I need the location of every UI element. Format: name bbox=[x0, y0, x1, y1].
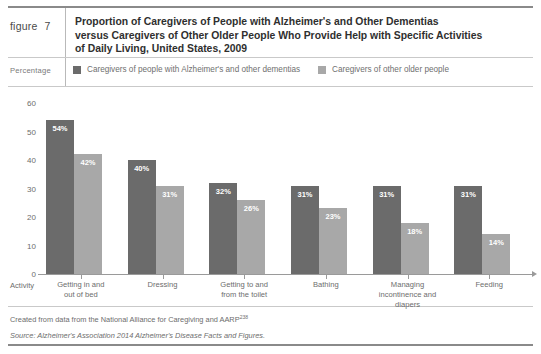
bar-value-label: 42% bbox=[74, 158, 102, 167]
bar-groups: 54%42%40%31%32%26%31%23%31%18%31%14% bbox=[40, 103, 530, 274]
bar-group: 54%42% bbox=[40, 103, 122, 274]
bar[interactable]: 54% bbox=[46, 120, 74, 274]
y-axis-tick-60: 60 bbox=[27, 99, 36, 108]
figure-number: 7 bbox=[44, 20, 50, 32]
y-axis-tick-20: 20 bbox=[27, 213, 36, 222]
divider-bottom bbox=[8, 344, 533, 346]
bar-value-label: 40% bbox=[128, 164, 156, 173]
figure-title: Proportion of Caregivers of People with … bbox=[75, 15, 530, 56]
legend-swatch-dementia-caregivers bbox=[73, 66, 81, 74]
bar-pair: 40%31% bbox=[122, 103, 204, 274]
legend-label-other-caregivers: Caregivers of other older people bbox=[332, 65, 449, 74]
bar-value-label: 31% bbox=[156, 190, 184, 199]
x-axis-category-label-line: Managing bbox=[367, 280, 449, 290]
legend-label-dementia-caregivers: Caregivers of people with Alzheimer's an… bbox=[87, 65, 300, 74]
bar-pair: 54%42% bbox=[40, 103, 122, 274]
footnote-created-text: Created from data from the National Alli… bbox=[10, 315, 240, 324]
x-axis-category-label: Bathing bbox=[285, 280, 367, 310]
x-axis-category-label: Getting in andout of bed bbox=[40, 280, 122, 310]
footnote-created: Created from data from the National Alli… bbox=[10, 314, 248, 324]
y-axis-tick-0: 0 bbox=[32, 270, 36, 279]
bar-value-label: 31% bbox=[373, 190, 401, 199]
bar-pair: 32%26% bbox=[203, 103, 285, 274]
figure-title-line-3: of Daily Living, United States, 2009 bbox=[75, 42, 530, 56]
y-axis-tick-30: 30 bbox=[27, 184, 36, 193]
bar-group: 31%23% bbox=[285, 103, 367, 274]
figure-label: figure7 bbox=[10, 20, 51, 32]
bar-pair: 31%23% bbox=[285, 103, 367, 274]
bar-value-label: 23% bbox=[319, 212, 347, 221]
bar-value-label: 32% bbox=[209, 187, 237, 196]
bar[interactable]: 31% bbox=[156, 186, 184, 274]
bar[interactable]: 31% bbox=[373, 186, 401, 274]
bar-value-label: 31% bbox=[291, 190, 319, 199]
figure-title-line-2: versus Caregivers of Other Older People … bbox=[75, 29, 530, 43]
x-axis-category-label: Getting to andfrom the toilet bbox=[203, 280, 285, 310]
y-axis-tick-40: 40 bbox=[27, 156, 36, 165]
figure-container: figure7 Proportion of Caregivers of Peop… bbox=[0, 0, 541, 354]
x-axis-category-label-line: Getting to and bbox=[203, 280, 285, 290]
x-axis-arrow bbox=[532, 271, 537, 277]
figure-word: figure bbox=[10, 20, 37, 32]
bar-value-label: 26% bbox=[237, 204, 265, 213]
bar[interactable]: 23% bbox=[319, 208, 347, 274]
x-axis-category-label-line: Dressing bbox=[122, 280, 204, 290]
bar-group: 40%31% bbox=[122, 103, 204, 274]
bar-pair: 31%14% bbox=[448, 103, 530, 274]
x-axis-category-label-line: incontinence and diapers bbox=[367, 290, 449, 310]
bar[interactable]: 42% bbox=[74, 154, 102, 274]
x-axis-caption: Activity bbox=[10, 281, 34, 290]
divider-top bbox=[8, 6, 533, 8]
bar-value-label: 54% bbox=[46, 124, 74, 133]
bar-group: 31%14% bbox=[448, 103, 530, 274]
divider-header-vertical bbox=[65, 8, 66, 86]
x-axis-line bbox=[38, 274, 534, 275]
x-axis-category-label-line: out of bed bbox=[40, 290, 122, 300]
figure-title-line-1: Proportion of Caregivers of People with … bbox=[75, 15, 530, 29]
bar[interactable]: 26% bbox=[237, 200, 265, 274]
bar[interactable]: 31% bbox=[454, 186, 482, 274]
divider-legend-bottom bbox=[8, 86, 533, 87]
x-axis-tick-labels: Getting in andout of bedDressingGetting … bbox=[40, 280, 530, 310]
x-axis-category-label: Dressing bbox=[122, 280, 204, 310]
x-axis-category-label-line: from the toilet bbox=[203, 290, 285, 300]
x-axis-tick-mark bbox=[163, 275, 164, 279]
footnote-source: Source: Alzheimer's Association 2014 Alz… bbox=[10, 331, 265, 340]
bar-value-label: 31% bbox=[454, 190, 482, 199]
legend-item-dementia-caregivers: Caregivers of people with Alzheimer's an… bbox=[73, 65, 300, 74]
x-axis-category-label: Managingincontinence and diapers bbox=[367, 280, 449, 310]
x-axis-tick-mark bbox=[81, 275, 82, 279]
bar[interactable]: 14% bbox=[482, 234, 510, 274]
x-axis-tick-mark bbox=[244, 275, 245, 279]
bar-group: 32%26% bbox=[203, 103, 285, 274]
bar-value-label: 18% bbox=[401, 227, 429, 236]
x-axis-category-label: Feeding bbox=[448, 280, 530, 310]
bar[interactable]: 32% bbox=[209, 183, 237, 274]
legend-item-other-caregivers: Caregivers of other older people bbox=[318, 65, 449, 74]
bar[interactable]: 40% bbox=[128, 160, 156, 274]
x-axis-tick-mark bbox=[326, 275, 327, 279]
y-axis-tick-labels: 0102030405060 bbox=[10, 97, 36, 279]
legend-swatch-other-caregivers bbox=[318, 66, 326, 74]
x-axis-category-label-line: Getting in and bbox=[40, 280, 122, 290]
y-axis-tick-50: 50 bbox=[27, 127, 36, 136]
bar-value-label: 14% bbox=[482, 238, 510, 247]
y-axis-caption: Percentage bbox=[10, 66, 51, 75]
x-axis-category-label-line: Bathing bbox=[285, 280, 367, 290]
x-axis-tick-mark bbox=[408, 275, 409, 279]
x-axis-category-label-line: Feeding bbox=[448, 280, 530, 290]
bar[interactable]: 18% bbox=[401, 223, 429, 274]
y-axis-tick-10: 10 bbox=[27, 241, 36, 250]
divider-header-bottom bbox=[8, 57, 533, 58]
footnote-created-superscript: 238 bbox=[240, 314, 248, 320]
x-axis-tick-mark bbox=[489, 275, 490, 279]
bar-group: 31%18% bbox=[367, 103, 449, 274]
bar[interactable]: 31% bbox=[291, 186, 319, 274]
bar-pair: 31%18% bbox=[367, 103, 449, 274]
